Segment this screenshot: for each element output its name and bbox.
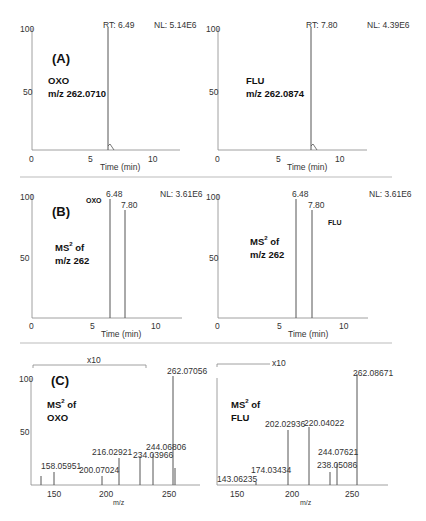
nl-label: NL: 3.61E6 <box>160 189 203 199</box>
x-axis-label: m/z <box>300 499 312 506</box>
zoom-factor-label: x10 <box>272 358 286 368</box>
zoom-factor-label: x10 <box>87 355 101 365</box>
x-tick-0: 0 <box>29 321 34 331</box>
peak-label: 244.07621 <box>318 447 358 457</box>
x-axis-label: Time (min) <box>287 162 327 172</box>
x-axis-label: Time (min) <box>288 329 328 339</box>
peak-label: 6.48 <box>292 189 309 199</box>
rt-label: RT: 7.80 <box>306 20 338 30</box>
x-tick-5: 5 <box>277 321 282 331</box>
compound-label: OXO <box>48 75 69 86</box>
peak-label: 244.06806 <box>146 442 186 452</box>
y-tick-50: 50 <box>209 253 219 263</box>
panel-a-right-chromatogram: 100 50 0 5 10 Time (min) RT: 7.80 NL: 4.… <box>206 20 410 172</box>
mz-label: m/z 262.0710 <box>48 88 106 99</box>
mz-label: m/z 262 <box>250 249 284 260</box>
nl-label: NL: 4.39E6 <box>367 20 410 30</box>
x-tick-0: 0 <box>215 154 220 164</box>
y-tick-100: 100 <box>19 374 33 384</box>
panel-c-right-spectrum: x10 150 200 250 m/z 143.06235 174.03434 … <box>217 358 393 506</box>
x-axis-label: Time (min) <box>101 329 141 339</box>
panel-a-left-chromatogram: 100 50 0 5 10 Time (min) RT: 6.49 NL: 5.… <box>20 20 197 172</box>
x-tick-200: 200 <box>99 489 113 499</box>
compound-tag: FLU <box>328 219 342 226</box>
figure: 100 50 0 5 10 Time (min) RT: 6.49 NL: 5.… <box>0 0 426 521</box>
panel-label-c: (C) <box>51 373 69 388</box>
peak-label: 262.07056 <box>167 366 207 376</box>
panel-label-a: (A) <box>52 51 70 66</box>
compound-label: OXO <box>47 412 68 423</box>
y-tick-50: 50 <box>20 427 30 437</box>
ms2-label: MS2 of <box>55 241 85 253</box>
x-axis-label: Time (min) <box>100 162 140 172</box>
peak-label: 6.48 <box>106 189 123 199</box>
x-tick-10: 10 <box>148 154 158 164</box>
panel-c-left-spectrum: x10 100 50 150 200 250 m/z 158.05951 200… <box>19 355 207 506</box>
rt-label: RT: 6.49 <box>103 20 135 30</box>
y-tick-50: 50 <box>23 87 33 97</box>
x-tick-250: 250 <box>345 489 359 499</box>
peak-label: 220.04022 <box>304 418 344 428</box>
x-tick-5: 5 <box>276 154 281 164</box>
peak-label: 174.03434 <box>251 465 291 475</box>
peak-label: 202.02936 <box>265 419 305 429</box>
panel-b-left-chromatogram: 100 50 0 5 10 Time (min) 6.48 7.80 OXO N… <box>20 189 203 339</box>
x-tick-10: 10 <box>339 321 349 331</box>
y-tick-100: 100 <box>206 24 220 34</box>
x-tick-0: 0 <box>215 321 220 331</box>
peak-label: 158.05951 <box>41 461 81 471</box>
y-tick-50: 50 <box>209 87 219 97</box>
x-axis-label: m/z <box>113 499 125 506</box>
mz-label: m/z 262.0874 <box>246 88 305 99</box>
y-tick-100: 100 <box>206 192 220 202</box>
peak-label: 238.05086 <box>317 460 357 470</box>
peak-label: 200.07024 <box>79 465 119 475</box>
ms2-label: MS2 of <box>231 398 261 410</box>
x-tick-10: 10 <box>151 321 161 331</box>
y-tick-50: 50 <box>20 253 30 263</box>
x-tick-150: 150 <box>47 489 61 499</box>
compound-label: FLU <box>246 75 265 86</box>
nl-label: NL: 5.14E6 <box>154 20 197 30</box>
ms2-label: MS2 of <box>47 398 77 410</box>
peak-label: 143.06235 <box>217 474 257 484</box>
peak-label: 7.80 <box>121 200 138 210</box>
x-tick-0: 0 <box>29 154 34 164</box>
x-tick-10: 10 <box>335 154 345 164</box>
x-tick-5: 5 <box>90 321 95 331</box>
y-tick-100: 100 <box>20 24 34 34</box>
nl-label: NL: 3.61E6 <box>369 189 412 199</box>
panel-label-b: (B) <box>52 204 70 219</box>
compound-tag: OXO <box>86 197 102 204</box>
panel-b-right-chromatogram: 100 50 0 5 10 Time (min) 6.48 7.80 FLU N… <box>206 189 412 339</box>
peak-label: 216.02921 <box>92 447 132 457</box>
x-tick-200: 200 <box>285 489 299 499</box>
y-tick-100: 100 <box>20 192 34 202</box>
x-tick-5: 5 <box>88 154 93 164</box>
x-tick-150: 150 <box>230 489 244 499</box>
mz-label: m/z 262 <box>55 255 89 266</box>
peak-label: 7.80 <box>308 200 325 210</box>
compound-label: FLU <box>231 412 250 423</box>
peak-label: 262.08671 <box>353 368 393 378</box>
ms2-label: MS2 of <box>250 235 280 247</box>
x-tick-250: 250 <box>162 489 176 499</box>
